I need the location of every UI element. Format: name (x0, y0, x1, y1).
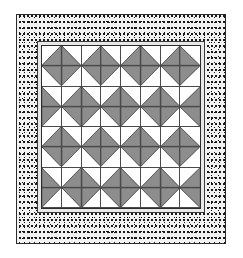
patch-cell (180, 147, 200, 167)
patch-cell (101, 127, 121, 147)
patch-cell (62, 168, 82, 188)
patch-cell (141, 87, 161, 107)
patch-cell (42, 127, 62, 147)
patch-cell (101, 147, 121, 167)
patch-cell (161, 168, 181, 188)
patch-cell (161, 147, 181, 167)
patch-cell (161, 107, 181, 127)
patch-cell (161, 127, 181, 147)
patch-cell (62, 46, 82, 66)
patch-cell (82, 66, 102, 86)
patch-cell (101, 46, 121, 66)
patch-cell (42, 107, 62, 127)
patch-cell (161, 188, 181, 208)
patch-cell (121, 46, 141, 66)
patch-cell (42, 87, 62, 107)
patch-cell (141, 147, 161, 167)
patch-cell (121, 107, 141, 127)
patch-cell (141, 66, 161, 86)
patch-cell (121, 188, 141, 208)
patch-cell (101, 66, 121, 86)
patch-cell (141, 168, 161, 188)
patch-cell (82, 107, 102, 127)
patch-cell (42, 188, 62, 208)
patch-cell (42, 46, 62, 66)
patch-cell (121, 66, 141, 86)
patch-cell (141, 188, 161, 208)
patch-cell (62, 107, 82, 127)
patch-cell (82, 46, 102, 66)
patch-cell (82, 127, 102, 147)
patch-cell (121, 87, 141, 107)
patch-cell (141, 127, 161, 147)
patch-cell (62, 66, 82, 86)
patch-cell (121, 147, 141, 167)
patch-cell (121, 127, 141, 147)
patch-cell (161, 87, 181, 107)
patch-cell (121, 168, 141, 188)
patch-cell (141, 107, 161, 127)
patch-cell (101, 168, 121, 188)
patch-cell (62, 87, 82, 107)
patch-cell (42, 66, 62, 86)
patch-cell (180, 66, 200, 86)
patch-cell (82, 188, 102, 208)
patch-cell (141, 46, 161, 66)
patch-cell (82, 87, 102, 107)
patch-cell (62, 188, 82, 208)
patch-cell (101, 107, 121, 127)
patchwork-grid (41, 45, 201, 209)
patch-cell (161, 66, 181, 86)
patch-cell (180, 87, 200, 107)
patch-cell (161, 46, 181, 66)
patch-cell (62, 127, 82, 147)
sashing-frame (37, 41, 205, 213)
patch-cell (42, 147, 62, 167)
patch-cell (42, 168, 62, 188)
patch-cell (82, 168, 102, 188)
patch-cell (180, 127, 200, 147)
patch-cell (82, 147, 102, 167)
quilt-block-diagram (0, 0, 243, 258)
patch-cell (101, 87, 121, 107)
patch-cell (180, 46, 200, 66)
patch-cell (180, 188, 200, 208)
patch-cell (180, 107, 200, 127)
patch-cell (101, 188, 121, 208)
patch-cell (180, 168, 200, 188)
patch-cell (62, 147, 82, 167)
